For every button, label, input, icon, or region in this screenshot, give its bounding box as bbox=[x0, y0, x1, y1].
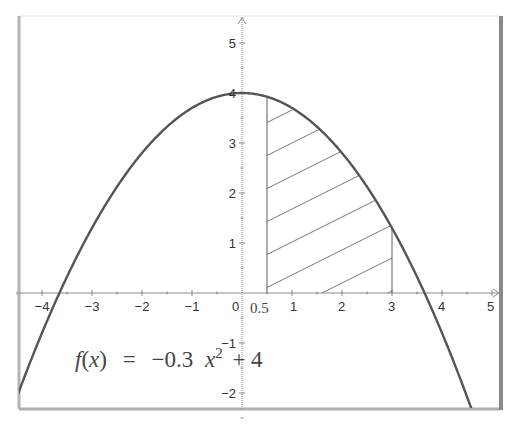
x-half-label: 0.5 bbox=[250, 300, 269, 316]
x-tick-label: 5 bbox=[487, 299, 494, 314]
x-tick-label: 4 bbox=[438, 299, 445, 314]
x-tick-label: 3 bbox=[388, 299, 395, 314]
y-tick-label: 1 bbox=[229, 236, 236, 251]
y-tick-label: 4 bbox=[229, 86, 236, 101]
y-tick-label: 3 bbox=[229, 136, 236, 151]
y-tick-label: 2 bbox=[229, 186, 236, 201]
x-tick-label: −3 bbox=[85, 299, 100, 314]
x-tick-label: −1 bbox=[185, 299, 200, 314]
y-tick-label: 5 bbox=[229, 36, 236, 51]
x-tick-label: 0 bbox=[232, 299, 239, 314]
x-tick-label: −4 bbox=[35, 299, 50, 314]
y-tick-label: −2 bbox=[221, 386, 236, 401]
x-tick-label: −2 bbox=[135, 299, 150, 314]
shaded-area bbox=[240, 0, 420, 433]
x-tick-label: 2 bbox=[338, 299, 345, 314]
function-plot: −4−3−2−1012345 −2−112345 0.5 f(x) = −0.3… bbox=[0, 0, 509, 433]
x-tick-label: 1 bbox=[290, 299, 297, 314]
parabola-curve bbox=[9, 93, 509, 433]
